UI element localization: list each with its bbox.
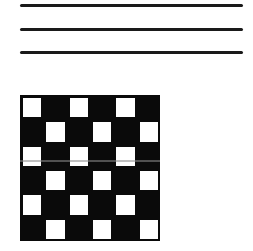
- dark-square: [113, 168, 136, 192]
- dark-square: [137, 95, 160, 119]
- dark-square: [20, 119, 43, 143]
- light-square: [67, 192, 90, 216]
- dark-square: [137, 192, 160, 216]
- dark-square: [67, 119, 90, 143]
- light-square: [20, 144, 43, 168]
- light-square: [67, 95, 90, 119]
- light-square: [67, 144, 90, 168]
- horizontal-line-1: [20, 4, 243, 7]
- light-square: [43, 119, 66, 143]
- light-square: [43, 217, 66, 241]
- dark-square: [90, 95, 113, 119]
- dark-square: [20, 168, 43, 192]
- dark-square: [43, 192, 66, 216]
- dark-square: [67, 217, 90, 241]
- light-square: [90, 168, 113, 192]
- light-square: [137, 217, 160, 241]
- light-square: [43, 168, 66, 192]
- dark-square: [137, 144, 160, 168]
- checkerboard-pattern: [20, 95, 160, 241]
- dark-square: [113, 119, 136, 143]
- dark-square: [90, 192, 113, 216]
- dark-square: [20, 217, 43, 241]
- light-square: [113, 192, 136, 216]
- light-square: [20, 95, 43, 119]
- dark-square: [90, 144, 113, 168]
- light-square: [113, 144, 136, 168]
- horizontal-line-3: [20, 51, 243, 54]
- dark-square: [43, 95, 66, 119]
- light-square: [20, 192, 43, 216]
- light-square: [90, 119, 113, 143]
- light-square: [90, 217, 113, 241]
- scan-seam-line: [20, 160, 160, 162]
- dark-square: [67, 168, 90, 192]
- horizontal-line-2: [20, 28, 243, 31]
- light-square: [113, 95, 136, 119]
- dark-square: [43, 144, 66, 168]
- light-square: [137, 119, 160, 143]
- light-square: [137, 168, 160, 192]
- dark-square: [113, 217, 136, 241]
